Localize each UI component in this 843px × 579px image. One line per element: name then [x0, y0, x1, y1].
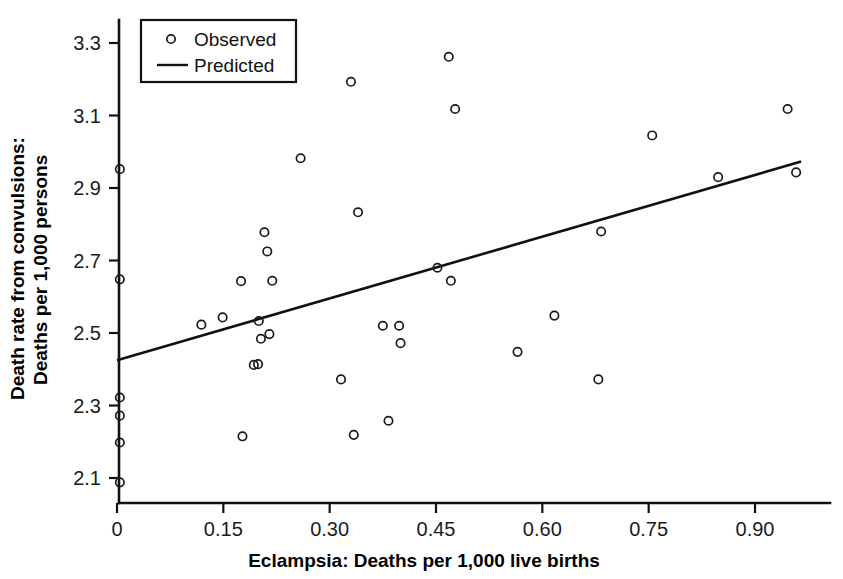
legend-predicted-label: Predicted	[194, 55, 274, 76]
data-point	[265, 330, 273, 338]
observed-data-points	[116, 53, 801, 487]
scatter-plot: 2.12.32.52.72.93.13.3 00.150.300.450.600…	[0, 0, 843, 579]
data-point	[550, 311, 558, 319]
x-tick-label-0.30: 0.30	[310, 518, 349, 540]
x-tick-label-0.90: 0.90	[736, 518, 775, 540]
legend: Observed Predicted	[141, 20, 296, 82]
predicted-regression-line	[117, 162, 801, 361]
data-point	[379, 322, 387, 330]
x-tick-label-0.15: 0.15	[204, 518, 243, 540]
y-axis-title-line-1: Death rate from convulsions:	[7, 137, 28, 400]
data-point	[260, 228, 268, 236]
data-point	[597, 227, 605, 235]
y-tick-label-2.7: 2.7	[73, 250, 101, 272]
data-point	[197, 320, 205, 328]
legend-observed-label: Observed	[194, 29, 276, 50]
x-axis-title: Eclampsia: Deaths per 1,000 live births	[248, 550, 600, 571]
data-point	[451, 105, 459, 113]
data-point	[347, 78, 355, 86]
data-point	[257, 335, 265, 343]
x-axis-tick-labels: 00.150.300.450.600.750.90	[111, 518, 774, 540]
y-tick-label-2.1: 2.1	[73, 467, 101, 489]
x-axis-ticks	[117, 503, 755, 513]
data-point	[296, 154, 304, 162]
data-point	[238, 432, 246, 440]
data-point	[447, 277, 455, 285]
x-tick-label-0.45: 0.45	[417, 518, 456, 540]
y-axis-title-line-2: Deaths per 1,000 persons	[30, 155, 51, 385]
y-tick-label-2.5: 2.5	[73, 322, 101, 344]
y-axis-tick-labels: 2.12.32.52.72.93.13.3	[73, 32, 101, 489]
data-point	[263, 247, 271, 255]
y-tick-label-3.1: 3.1	[73, 105, 101, 127]
data-point	[648, 131, 656, 139]
y-tick-label-2.3: 2.3	[73, 395, 101, 417]
data-point	[337, 375, 345, 383]
data-point	[792, 168, 800, 176]
data-point	[350, 431, 358, 439]
data-point	[396, 339, 404, 347]
y-axis-title: Death rate from convulsions: Deaths per …	[7, 137, 51, 400]
data-point	[594, 375, 602, 383]
data-point	[783, 105, 791, 113]
y-tick-label-2.9: 2.9	[73, 177, 101, 199]
data-point	[237, 277, 245, 285]
data-point	[445, 53, 453, 61]
data-point	[268, 277, 276, 285]
chart-page: 2.12.32.52.72.93.13.3 00.150.300.450.600…	[0, 0, 843, 579]
data-point	[714, 173, 722, 181]
x-tick-label-0.75: 0.75	[629, 518, 668, 540]
data-point	[513, 348, 521, 356]
data-point	[384, 417, 392, 425]
data-point	[354, 208, 362, 216]
data-point	[395, 322, 403, 330]
data-point	[218, 313, 226, 321]
x-tick-label-0: 0	[111, 518, 122, 540]
x-tick-label-0.60: 0.60	[523, 518, 562, 540]
y-tick-label-3.3: 3.3	[73, 32, 101, 54]
